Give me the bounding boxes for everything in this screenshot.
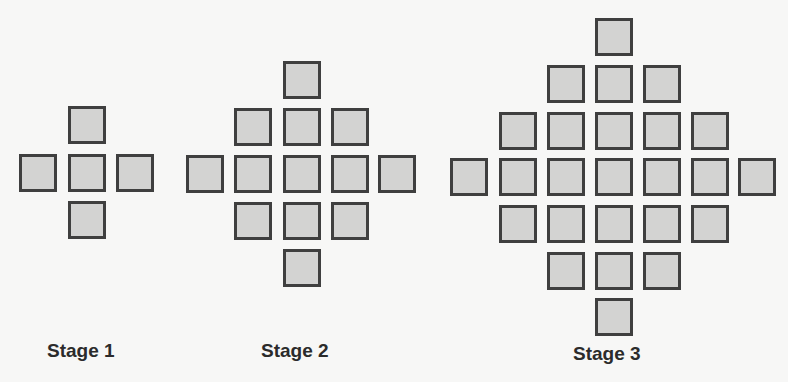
- tile-square: [499, 158, 537, 196]
- tile-square: [283, 61, 321, 99]
- tile-square: [331, 155, 369, 193]
- tile-square: [738, 158, 776, 196]
- stage-2-label: Stage 2: [261, 340, 329, 362]
- tile-square: [595, 112, 633, 150]
- tile-square: [186, 155, 224, 193]
- tile-square: [331, 108, 369, 146]
- tile-square: [643, 252, 681, 290]
- tile-square: [595, 205, 633, 243]
- tile-square: [691, 112, 729, 150]
- tile-square: [283, 155, 321, 193]
- tile-square: [643, 205, 681, 243]
- tile-square: [499, 205, 537, 243]
- tile-square: [691, 205, 729, 243]
- tile-square: [234, 202, 272, 240]
- tile-square: [595, 252, 633, 290]
- tile-square: [595, 65, 633, 103]
- tile-square: [547, 205, 585, 243]
- tile-square: [595, 298, 633, 336]
- stage-1-label: Stage 1: [47, 340, 115, 362]
- tile-square: [68, 201, 106, 239]
- tile-square: [68, 106, 106, 144]
- tile-square: [283, 202, 321, 240]
- stage-3-label: Stage 3: [573, 343, 641, 365]
- tile-square: [283, 249, 321, 287]
- tile-square: [283, 108, 321, 146]
- tile-square: [595, 18, 633, 56]
- tile-square: [547, 158, 585, 196]
- tile-square: [234, 155, 272, 193]
- tile-square: [595, 158, 633, 196]
- tile-square: [378, 155, 416, 193]
- tile-square: [331, 202, 369, 240]
- tile-square: [547, 65, 585, 103]
- tile-square: [116, 154, 154, 192]
- tile-square: [643, 158, 681, 196]
- tile-square: [234, 108, 272, 146]
- tile-square: [68, 154, 106, 192]
- tile-square: [547, 252, 585, 290]
- tile-square: [643, 112, 681, 150]
- tile-square: [547, 112, 585, 150]
- tile-square: [450, 158, 488, 196]
- tile-square: [19, 154, 57, 192]
- tile-square: [691, 158, 729, 196]
- tile-square: [643, 65, 681, 103]
- tile-square: [499, 112, 537, 150]
